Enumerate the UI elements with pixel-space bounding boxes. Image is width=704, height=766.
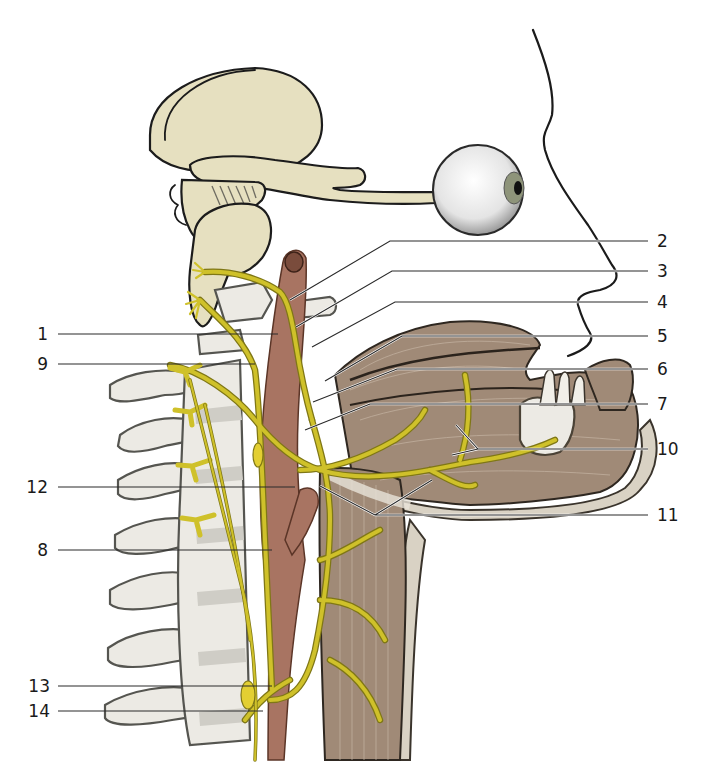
face-profile-outline — [533, 30, 616, 356]
label-6: 6 — [657, 359, 668, 379]
label-1: 1 — [37, 324, 48, 344]
label-2: 2 — [657, 231, 668, 251]
leader-line-3 — [296, 271, 648, 327]
label-7: 7 — [657, 394, 668, 414]
label-13: 13 — [28, 676, 50, 696]
label-14: 14 — [28, 701, 50, 721]
label-10: 10 — [657, 439, 679, 459]
label-3: 3 — [657, 261, 668, 281]
labels-right: 2 3 4 5 6 7 10 11 — [657, 231, 679, 525]
label-12: 12 — [26, 477, 48, 497]
anatomy-figure: 1 9 12 8 13 14 2 3 4 5 6 7 10 11 — [0, 0, 704, 766]
label-11: 11 — [657, 505, 679, 525]
label-5: 5 — [657, 326, 668, 346]
label-9: 9 — [37, 354, 48, 374]
label-8: 8 — [37, 540, 48, 560]
labels-left: 1 9 12 8 13 14 — [26, 324, 50, 721]
label-4: 4 — [657, 292, 668, 312]
eyeball — [433, 145, 524, 235]
